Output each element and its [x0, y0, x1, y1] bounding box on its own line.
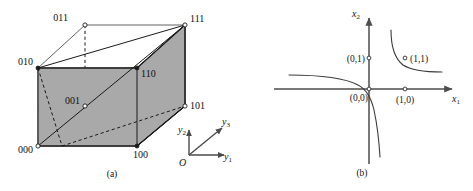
figure-root: 011 111 010 110 001 101 000 100 y2 y3	[0, 0, 473, 191]
vertex-label-111: 111	[190, 13, 204, 24]
plot-y-axis-label-subscript: 2	[356, 13, 360, 21]
vertex-dot-111	[183, 23, 187, 27]
panel-b: x2 x1 (0,1) (1,1) (0,0) (1,0) (b)	[274, 8, 460, 179]
axis-label-y1-subscript: 1	[228, 156, 232, 164]
panel-a: 011 111 010 110 001 101 000 100 y2 y3	[18, 12, 232, 180]
axis-y3-arrow	[189, 128, 222, 155]
point-label-1-1: (1,1)	[410, 54, 428, 65]
curve-upper-right-branch	[391, 30, 442, 72]
vertex-label-110: 110	[141, 68, 156, 79]
point-dot-1-0	[403, 87, 407, 91]
vertex-label-000: 000	[18, 144, 33, 155]
axis-label-y2-subscript: 2	[182, 129, 186, 137]
plot-x-axis-label-subscript: 1	[456, 98, 460, 106]
panel-a-caption: (a)	[107, 169, 118, 180]
point-dot-1-1	[403, 56, 407, 60]
vertex-dot-101	[183, 104, 187, 108]
point-label-1-0: (1,0)	[396, 95, 414, 106]
vertex-label-011: 011	[53, 12, 68, 23]
vertex-label-010: 010	[18, 56, 33, 67]
vertex-dot-000	[36, 144, 40, 148]
point-dot-0-1	[367, 56, 371, 60]
axis-label-y1-letter: y1	[223, 151, 232, 164]
plot-y-axis-label: x2	[351, 8, 360, 21]
vertex-label-100: 100	[133, 149, 148, 160]
point-dot-0-0	[367, 87, 371, 91]
vertex-label-101: 101	[190, 100, 205, 111]
axis-origin-label: O	[179, 157, 186, 168]
point-label-0-1: (0,1)	[347, 54, 365, 65]
vertex-dot-001	[83, 104, 87, 108]
vertex-dot-010	[36, 66, 40, 70]
axis-label-y2-letter: y2	[177, 124, 186, 137]
axis-triad: y2 y3 y1 O	[177, 116, 232, 168]
plot-x-axis-label: x1	[451, 93, 460, 106]
vertex-dot-100	[135, 144, 139, 148]
figure-svg: 011 111 010 110 001 101 000 100 y2 y3	[0, 0, 473, 191]
axis-label-y3-subscript: 3	[226, 121, 230, 129]
axis-label-y3-letter: y3	[221, 116, 230, 129]
curve-lower-left-branch	[289, 75, 380, 157]
vertex-dot-110	[135, 66, 139, 70]
vertex-label-001: 001	[65, 95, 80, 106]
point-label-0-0: (0,0)	[350, 93, 368, 104]
vertex-dot-011	[83, 23, 87, 27]
panel-b-caption: (b)	[356, 168, 367, 179]
